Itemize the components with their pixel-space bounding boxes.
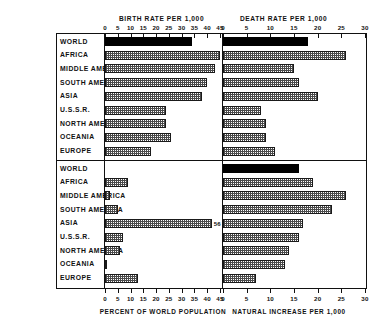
bar-natural-increase-south-america [223,205,332,214]
bar-natural-increase-europe [223,274,256,283]
axis-tick-label: 10 [267,295,274,302]
bar-natural-increase-u-s-s-r [223,233,299,242]
axis-tick-mark [223,288,224,293]
bar-natural-increase-asia [223,219,303,228]
axis-tick-label: 5 [245,295,249,302]
bar-natural-increase-north-america [223,246,289,255]
natural-increase-caption: NATURAL INCREASE PER 1,000 [232,308,345,315]
bar-natural-increase-middle-america [223,191,346,200]
natural-increase-bars [0,0,376,322]
axis-tick-mark [365,288,366,293]
figure-root: BIRTH RATE PER 1,000 DEATH RATE PER 1,00… [0,0,376,322]
bar-natural-increase-africa [223,178,313,187]
axis-tick-label: 0 [221,295,225,302]
bar-natural-increase-world [223,164,299,173]
axis-tick-label: 15 [290,295,297,302]
axis-tick-label: 30 [361,295,368,302]
bar-natural-increase-oceania [223,260,285,269]
percent-population-caption: PERCENT OF WORLD POPULATION [100,308,227,315]
axis-tick-mark [294,288,295,293]
axis-tick-label: 25 [338,295,345,302]
axis-tick-mark [270,288,271,293]
axis-tick-mark [341,288,342,293]
natural-increase-tick-marks [0,288,376,294]
natural-increase-axis-labels: 051015202530 [0,295,376,307]
axis-tick-mark [318,288,319,293]
axis-tick-mark [247,288,248,293]
axis-tick-label: 20 [314,295,321,302]
